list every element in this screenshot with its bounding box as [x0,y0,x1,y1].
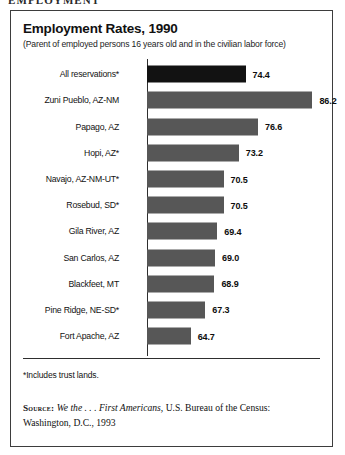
bar-track: 69.0 [147,249,320,266]
bar-row: All reservations*74.4 [23,61,320,87]
bar-fill [147,328,191,345]
bar-row: San Carlos, AZ69.0 [23,244,320,270]
page-running-header: EMPLOYMENT [8,0,100,5]
bar-track: 69.4 [147,223,320,240]
bar-row: Gila River, AZ69.4 [23,218,320,244]
bar-fill [147,301,205,318]
bar-fill [147,66,246,83]
chart-subtitle: (Parent of employed persons 16 years old… [23,39,320,49]
bar-track: 76.6 [147,118,320,135]
chart-title: Employment Rates, 1990 [23,22,320,37]
figure-content: Employment Rates, 1990 (Parent of employ… [11,11,332,446]
bar-row: Zuni Pueblo, AZ-NM86.2 [23,87,320,113]
bar-value-label: 70.5 [231,174,248,184]
bar-category-label: Blackfeet, MT [68,279,119,289]
bar-track: 70.5 [147,197,320,214]
bar-value-label: 69.4 [224,226,241,236]
bar-track: 64.7 [147,328,320,345]
bar-chart-plot: All reservations*74.4Zuni Pueblo, AZ-NM8… [23,61,320,356]
bar-track: 67.3 [147,301,320,318]
bar-track: 70.5 [147,171,320,188]
bar-fill [147,249,215,266]
bar-fill [147,171,224,188]
bar-row: Blackfeet, MT68.9 [23,271,320,297]
bar-row: Pine Ridge, NE-SD*67.3 [23,297,320,323]
bar-value-label: 67.3 [212,305,229,315]
bar-fill [147,275,214,292]
bar-category-label: Hopi, AZ* [84,148,119,158]
bar-track: 74.4 [147,66,320,83]
bar-fill [147,118,258,135]
bar-track: 73.2 [147,144,320,161]
source-place-date: Washington, D.C., 1993 [23,417,116,428]
bar-category-label: Navajo, AZ-NM-UT* [46,174,119,184]
chart-footnote: *Includes trust lands. [23,370,320,380]
bar-value-label: 74.4 [253,69,270,79]
bar-row: Hopi, AZ*73.2 [23,140,320,166]
bar-category-label: Fort Apache, AZ [60,331,119,341]
figure-frame: Employment Rates, 1990 (Parent of employ… [10,10,333,447]
bar-row: Papago, AZ76.6 [23,114,320,140]
source-label: Source: [23,403,54,413]
bar-category-label: Pine Ridge, NE-SD* [45,305,119,315]
bar-value-label: 86.2 [319,95,336,105]
bar-track: 86.2 [147,92,320,109]
source-note: Source: We the . . . First Americans, U.… [23,401,320,429]
bar-fill [147,144,239,161]
bar-value-label: 76.6 [265,122,282,132]
bar-row: Navajo, AZ-NM-UT*70.5 [23,166,320,192]
source-publisher: U.S. Bureau of the Census: [163,402,270,413]
bar-value-label: 64.7 [198,331,215,341]
bar-value-label: 73.2 [246,148,263,158]
bar-fill [147,223,217,240]
bar-row: Rosebud, SD*70.5 [23,192,320,218]
bar-category-label: Papago, AZ [76,122,119,132]
source-publication-title: We the . . . First Americans, [57,402,164,413]
bar-track: 68.9 [147,275,320,292]
bar-fill [147,92,312,109]
bar-fill [147,197,224,214]
bar-value-label: 70.5 [231,200,248,210]
bar-row: Fort Apache, AZ64.7 [23,323,320,349]
bar-value-label: 68.9 [221,279,238,289]
bar-rows: All reservations*74.4Zuni Pueblo, AZ-NM8… [23,61,320,349]
bar-value-label: 69.0 [222,253,239,263]
bar-category-label: All reservations* [60,69,119,79]
bar-category-label: Zuni Pueblo, AZ-NM [44,95,119,105]
plot-baseline-rule [23,358,320,359]
bar-category-label: San Carlos, AZ [63,253,119,263]
bar-category-label: Gila River, AZ [69,226,119,236]
bar-category-label: Rosebud, SD* [66,200,119,210]
